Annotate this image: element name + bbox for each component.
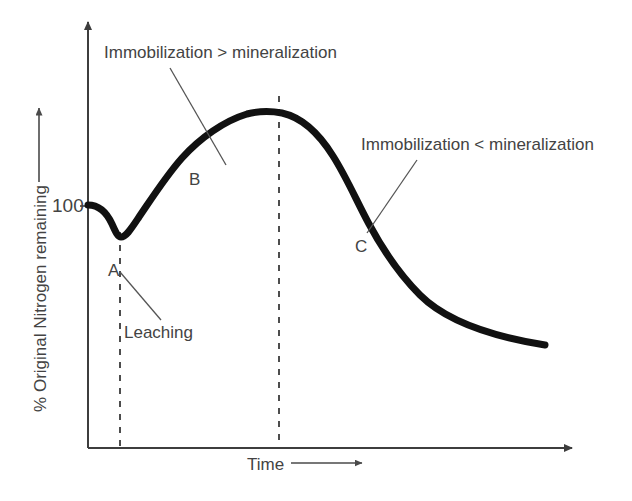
leader-line-immobilization-greater [170, 68, 226, 165]
leader-line-leaching [120, 272, 161, 320]
chart-plot-area [0, 0, 632, 501]
leader-line-immobilization-less [367, 160, 417, 233]
point-label-a: A [108, 262, 119, 279]
x-axis-title: Time [247, 456, 284, 473]
y-axis-tick-label-100: 100 [52, 196, 84, 215]
annotation-leaching: Leaching [124, 324, 193, 341]
annotation-immobilization-greater: Immobilization > mineralization [104, 44, 337, 61]
point-label-b: B [189, 171, 200, 188]
point-label-c: C [355, 238, 367, 255]
nitrogen-mineralization-chart: Immobilization > mineralization Immobili… [0, 0, 632, 501]
y-axis-title: % Original Nitrogen remaining [32, 184, 49, 414]
annotation-immobilization-less: Immobilization < mineralization [361, 136, 594, 153]
